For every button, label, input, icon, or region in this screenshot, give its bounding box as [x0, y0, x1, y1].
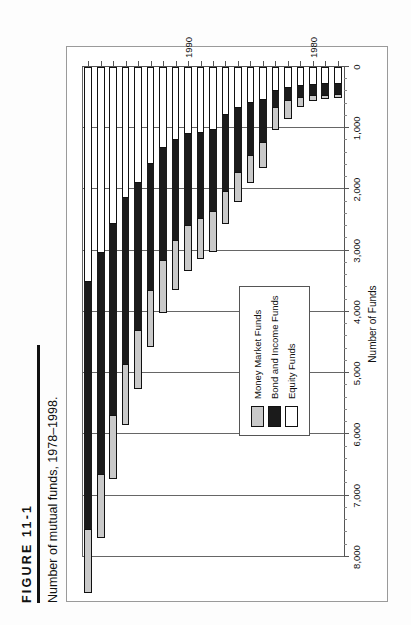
value-axis-line [344, 67, 345, 557]
bar-segment-bond-and-income-funds [222, 115, 230, 191]
bar-1981 [297, 67, 305, 107]
bar-segment-bond-and-income-funds [309, 85, 317, 95]
category-tick-1991 [176, 61, 177, 66]
value-minor-tick [344, 91, 347, 92]
value-minor-tick [344, 213, 347, 214]
bar-segment-equity-funds [247, 67, 255, 103]
category-tick-1993 [151, 61, 152, 66]
bar-1990 [184, 67, 192, 271]
bar-segment-bond-and-income-funds [209, 130, 217, 211]
bar-segment-bond-and-income-funds [259, 100, 267, 142]
figure-rule [37, 345, 40, 603]
legend-label-0: Money Market Funds [252, 310, 263, 399]
value-minor-tick [344, 115, 347, 116]
legend-item-1: Bond and Income Funds [268, 295, 281, 427]
bar-segment-equity-funds [172, 67, 180, 140]
bar-segment-money-market-funds [122, 364, 130, 425]
value-tick-label-5,000: 5,000 [351, 361, 362, 385]
category-label-1990: 1990 [183, 37, 194, 58]
value-tick-0 [344, 66, 349, 67]
bar-segment-money-market-funds [297, 97, 305, 107]
value-minor-tick [344, 336, 347, 337]
value-minor-tick [344, 360, 347, 361]
legend-item-2: Equity Funds [285, 295, 298, 427]
category-tick-1997 [101, 61, 102, 66]
value-minor-tick [344, 140, 347, 141]
value-tick-label-3,000: 3,000 [351, 239, 362, 263]
bar-1992 [159, 67, 167, 313]
category-tick-1982 [288, 61, 289, 66]
bar-segment-equity-funds [284, 67, 292, 88]
bar-segment-bond-and-income-funds [247, 103, 255, 156]
category-tick-1985 [250, 61, 251, 66]
value-minor-tick [344, 176, 347, 177]
value-minor-tick [344, 385, 347, 386]
bar-segment-equity-funds [272, 67, 280, 91]
category-tick-1995 [126, 61, 127, 66]
bar-segment-equity-funds [109, 67, 117, 224]
value-minor-tick [344, 238, 347, 239]
bar-segment-money-market-funds [259, 142, 267, 168]
bar-segment-bond-and-income-funds [234, 108, 242, 172]
value-minor-tick [344, 458, 347, 459]
figure-number: FIGURE 11-1 [20, 23, 34, 603]
bar-segment-equity-funds [234, 67, 242, 108]
category-axis-line [82, 66, 344, 67]
value-minor-tick [344, 544, 347, 545]
value-minor-tick [344, 397, 347, 398]
bar-segment-equity-funds [97, 67, 105, 253]
bar-segment-money-market-funds [284, 100, 292, 119]
value-minor-tick [344, 225, 347, 226]
value-minor-tick [344, 421, 347, 422]
figure-header: FIGURE 11-1 Number of mutual funds, 1978… [20, 23, 60, 603]
category-tick-1983 [275, 61, 276, 66]
value-tick-label-1,000: 1,000 [351, 116, 362, 140]
bar-segment-equity-funds [321, 67, 329, 84]
bar-segment-bond-and-income-funds [134, 183, 142, 330]
chart-frame: 01,0002,0003,0004,0005,0006,0007,0008,00… [66, 46, 388, 602]
bar-1997 [97, 67, 105, 538]
legend-swatch-0 [251, 406, 264, 427]
value-tick-1,000 [344, 127, 349, 128]
bar-segment-bond-and-income-funds [97, 253, 105, 474]
value-tick-label-4,000: 4,000 [351, 300, 362, 324]
value-tick-6,000 [344, 434, 349, 435]
bar-segment-equity-funds [134, 67, 142, 183]
bar-segment-bond-and-income-funds [197, 133, 205, 219]
bar-1984 [259, 67, 267, 168]
bar-segment-money-market-funds [309, 95, 317, 101]
bar-1995 [122, 67, 130, 425]
value-tick-label-7,000: 7,000 [351, 484, 362, 508]
value-minor-tick [344, 274, 347, 275]
bar-1998 [84, 67, 92, 593]
bar-segment-money-market-funds [97, 474, 105, 538]
bar-segment-money-market-funds [321, 95, 329, 100]
bar-1987 [222, 67, 230, 224]
bar-segment-bond-and-income-funds [84, 282, 92, 529]
value-minor-tick [344, 532, 347, 533]
category-tick-1998 [88, 61, 89, 66]
category-tick-1986 [238, 61, 239, 66]
bar-1989 [197, 67, 205, 259]
bar-1993 [147, 67, 155, 347]
value-minor-tick [344, 483, 347, 484]
bar-segment-bond-and-income-funds [334, 84, 342, 94]
bar-1982 [284, 67, 292, 119]
bar-segment-bond-and-income-funds [297, 86, 305, 97]
value-minor-tick [344, 201, 347, 202]
bar-segment-equity-funds [222, 67, 230, 115]
bar-segment-money-market-funds [84, 529, 92, 593]
bar-segment-money-market-funds [272, 107, 280, 130]
category-tick-1992 [163, 61, 164, 66]
category-tick-1996 [113, 61, 114, 66]
bar-segment-equity-funds [159, 67, 167, 148]
value-minor-tick [344, 507, 347, 508]
value-tick-label-6,000: 6,000 [351, 423, 362, 447]
value-tick-label-8,000: 8,000 [351, 545, 362, 569]
category-tick-1994 [138, 61, 139, 66]
bar-segment-money-market-funds [147, 290, 155, 346]
bar-segment-money-market-funds [159, 260, 167, 313]
category-tick-1978 [338, 61, 339, 66]
bar-segment-equity-funds [259, 67, 267, 100]
chart-legend: Money Market FundsBond and Income FundsE… [239, 286, 310, 436]
